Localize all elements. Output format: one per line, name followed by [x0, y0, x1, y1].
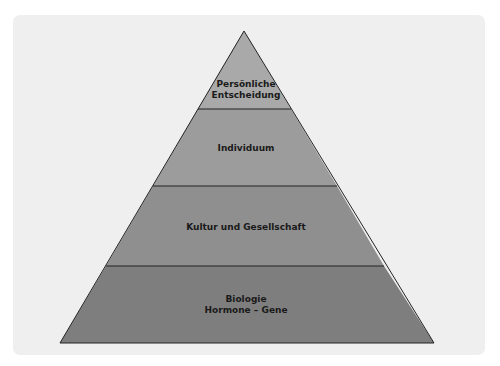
level-1-line-1: Persönliche — [212, 79, 281, 90]
level-4-line-2: Hormone – Gene — [205, 305, 288, 316]
level-2-label: Individuum — [218, 143, 275, 154]
level-1-label: Persönliche Entscheidung — [212, 79, 281, 101]
level-2-line-1: Individuum — [218, 143, 275, 154]
level-3-line-1: Kultur und Gesellschaft — [186, 222, 306, 233]
level-4-line-1: Biologie — [205, 294, 288, 305]
level-4-label: Biologie Hormone – Gene — [205, 294, 288, 316]
level-1-line-2: Entscheidung — [212, 90, 281, 101]
level-3-label: Kultur und Gesellschaft — [186, 222, 306, 233]
